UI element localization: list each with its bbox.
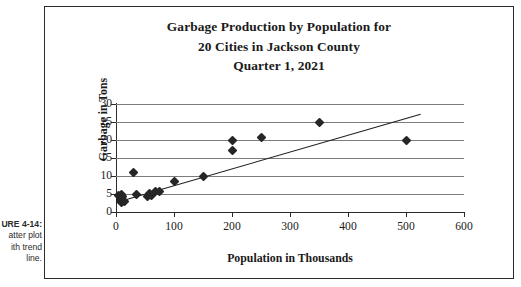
plot-area	[116, 104, 464, 212]
x-axis-tick-label: 0	[96, 221, 136, 233]
figure-caption-line-2: atter plot	[0, 230, 42, 241]
x-axis-tick-label: 500	[386, 221, 426, 233]
data-point	[401, 136, 411, 146]
x-axis-tick	[348, 212, 349, 217]
x-axis-tick-label: 400	[328, 221, 368, 233]
x-axis-tick-label: 100	[154, 221, 194, 233]
y-axis-tick-label: 15	[82, 152, 112, 164]
gridline-horizontal	[116, 176, 464, 177]
y-axis-tick	[111, 140, 116, 141]
y-axis-tick-label: 0	[82, 206, 112, 218]
chart-title-line-1: Garbage Production by Population for	[45, 17, 513, 37]
gridline-horizontal	[116, 194, 464, 195]
y-axis-tick-label: 10	[82, 170, 112, 182]
y-axis-tick-label: 25	[82, 116, 112, 128]
y-axis-tick	[111, 176, 116, 177]
y-axis-tick-label: 30	[82, 98, 112, 110]
y-axis-tick	[111, 122, 116, 123]
y-axis-tick	[111, 104, 116, 105]
gridline-horizontal	[116, 140, 464, 141]
figure-caption-line-4: line.	[0, 253, 42, 264]
chart-title-line-2: 20 Cities in Jackson County	[45, 37, 513, 57]
y-axis-tick	[111, 158, 116, 159]
x-axis-tick	[174, 212, 175, 217]
chart-title-line-3: Quarter 1, 2021	[45, 56, 513, 76]
y-axis-tick-label: 20	[82, 134, 112, 146]
figure-root: URE 4-14: atter plot ith trend line. Gar…	[0, 0, 521, 287]
gridline-horizontal	[116, 104, 464, 105]
figure-caption-label: URE 4-14:	[0, 219, 42, 230]
y-axis-tick-label: 5	[82, 188, 112, 200]
x-axis-tick	[464, 212, 465, 217]
figure-caption: URE 4-14: atter plot ith trend line.	[0, 219, 42, 265]
data-point	[227, 136, 237, 146]
x-axis-tick	[406, 212, 407, 217]
data-point	[227, 146, 237, 156]
x-axis-tick	[116, 212, 117, 217]
y-axis-tick-labels: 051015202530	[86, 98, 112, 218]
data-point	[198, 172, 208, 182]
gridline-horizontal	[116, 122, 464, 123]
data-point	[314, 118, 324, 128]
figure-caption-line-3: ith trend	[0, 242, 42, 253]
chart-title: Garbage Production by Population for 20 …	[45, 17, 513, 76]
gridline-horizontal	[116, 158, 464, 159]
x-axis-tick	[232, 212, 233, 217]
x-axis-title: Population in Thousands	[116, 251, 464, 266]
x-axis-tick	[290, 212, 291, 217]
x-axis-tick-label: 300	[270, 221, 310, 233]
x-axis-tick-label: 200	[212, 221, 252, 233]
x-axis-tick-label: 600	[444, 221, 484, 233]
